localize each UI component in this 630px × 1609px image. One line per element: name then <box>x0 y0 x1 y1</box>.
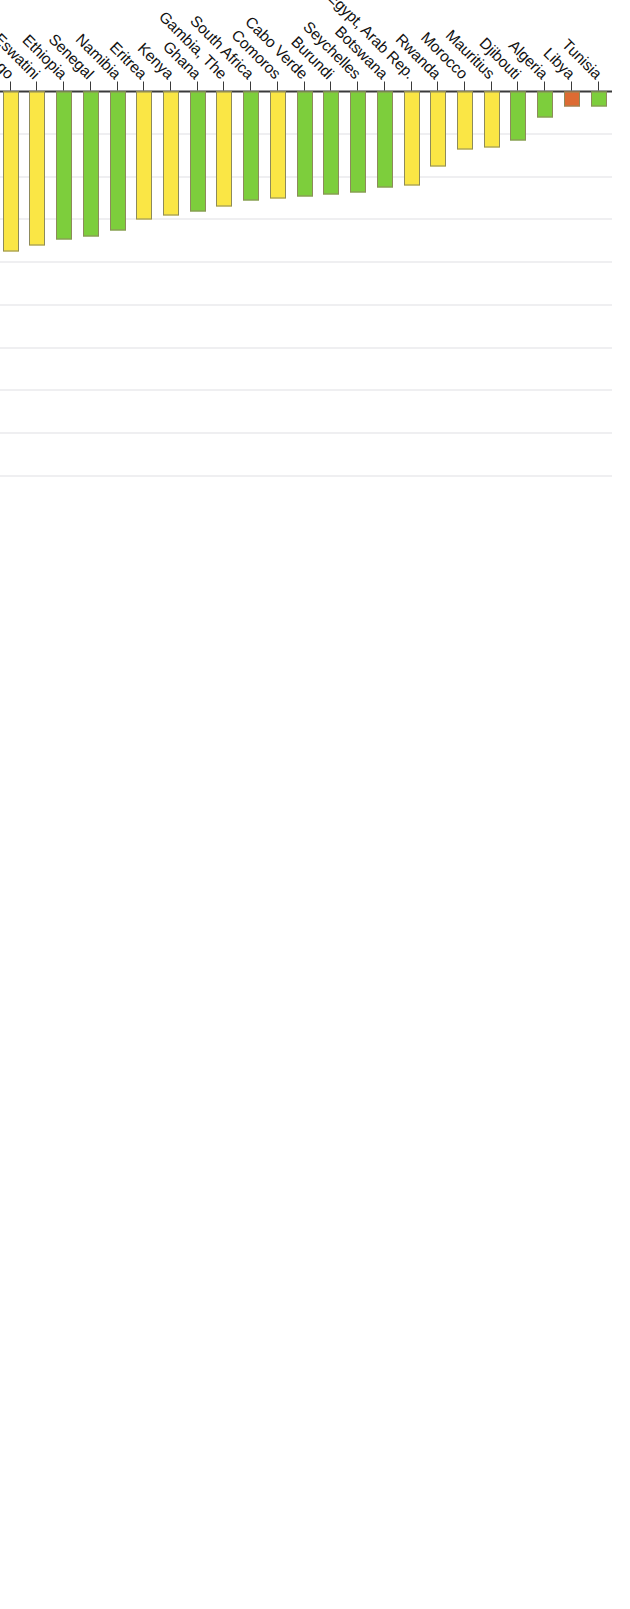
bar <box>270 91 286 198</box>
gridline <box>0 389 612 390</box>
bar <box>163 91 179 215</box>
category-tick <box>517 81 518 90</box>
category-tick <box>90 81 91 90</box>
category-tick <box>571 81 572 90</box>
gridline <box>0 475 612 476</box>
category-tick <box>143 81 144 90</box>
gridline <box>0 261 612 262</box>
bar <box>83 91 99 236</box>
category-tick <box>544 81 545 90</box>
category-tick <box>117 81 118 90</box>
bar <box>136 91 152 219</box>
bar <box>564 91 580 106</box>
category-tick <box>464 81 465 90</box>
rotated-figure: Number of births per 1,000 women ages 15… <box>0 0 630 1609</box>
bar <box>3 91 19 251</box>
category-tick <box>10 81 11 90</box>
bar <box>350 91 366 192</box>
gridline <box>0 347 612 348</box>
category-tick <box>384 81 385 90</box>
category-tick <box>411 81 412 90</box>
bar <box>537 91 553 117</box>
bar <box>404 91 420 185</box>
category-tick <box>250 81 251 90</box>
bar <box>591 91 607 106</box>
bar <box>56 91 72 239</box>
chart-page: Number of births per 1,000 women ages 15… <box>0 0 630 1609</box>
category-tick <box>437 81 438 90</box>
gridline <box>0 304 612 305</box>
plot-area: 020406080100120140160180 NigerMozambique… <box>0 90 612 507</box>
gridline <box>0 432 612 433</box>
bar <box>430 91 446 166</box>
category-tick <box>197 81 198 90</box>
category-tick <box>277 81 278 90</box>
bar <box>216 91 232 206</box>
category-tick <box>170 81 171 90</box>
bar <box>323 91 339 194</box>
bar <box>190 91 206 211</box>
bar <box>484 91 500 147</box>
bar <box>510 91 526 140</box>
bar <box>243 91 259 200</box>
category-tick <box>357 81 358 90</box>
category-tick <box>36 81 37 90</box>
category-tick <box>598 81 599 90</box>
bar <box>110 91 126 230</box>
bar <box>377 91 393 187</box>
category-tick <box>223 81 224 90</box>
category-tick <box>63 81 64 90</box>
bar <box>297 91 313 196</box>
category-tick <box>491 81 492 90</box>
category-tick <box>330 81 331 90</box>
bar <box>29 91 45 245</box>
category-tick <box>304 81 305 90</box>
bar <box>457 91 473 149</box>
bar-chart-figure: Number of births per 1,000 women ages 15… <box>0 0 630 1609</box>
